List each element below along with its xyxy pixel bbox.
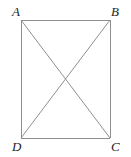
vertex-label-c: C	[111, 140, 120, 153]
vertex-label-a: A	[12, 5, 20, 18]
vertex-label-b: B	[111, 5, 119, 18]
geometry-figure: A B C D	[0, 0, 131, 157]
vertex-label-d: D	[12, 140, 21, 153]
rectangle-diagonals	[21, 20, 110, 138]
rectangle-diagram-svg	[0, 0, 131, 157]
